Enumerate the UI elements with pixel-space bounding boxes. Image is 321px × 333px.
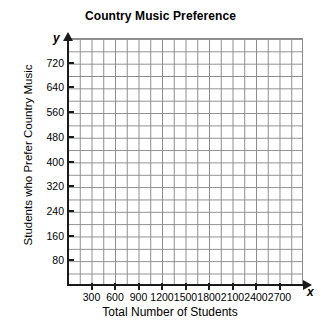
y-axis-tick-mark bbox=[67, 86, 74, 88]
y-axis-tick-mark bbox=[67, 136, 74, 138]
x-axis-title: Total Number of Students bbox=[40, 305, 300, 319]
y-axis-tick-label: 480 bbox=[46, 131, 64, 143]
y-axis-tick-mark bbox=[67, 185, 74, 187]
y-axis-tick-mark bbox=[67, 259, 74, 261]
x-axis-tick-mark bbox=[91, 283, 93, 290]
y-axis-tick-label: 720 bbox=[46, 57, 64, 69]
y-axis-tick-label: 240 bbox=[46, 205, 64, 217]
y-axis-tick: 80 bbox=[0, 254, 74, 266]
chart-figure: Country Music Preference Students who Pr… bbox=[0, 0, 321, 333]
y-axis-tick-label: 400 bbox=[46, 156, 64, 168]
x-axis-tick-mark bbox=[255, 283, 257, 290]
y-axis-tick: 480 bbox=[0, 131, 74, 143]
y-axis-tick: 640 bbox=[0, 81, 74, 93]
y-axis-tick: 160 bbox=[0, 230, 74, 242]
chart-title: Country Music Preference bbox=[0, 9, 321, 23]
y-axis-tick: 720 bbox=[0, 57, 74, 69]
y-axis-tick-label: 320 bbox=[46, 180, 64, 192]
x-axis-tick-mark bbox=[208, 283, 210, 290]
x-axis-tick-mark bbox=[185, 283, 187, 290]
y-axis-tick-mark bbox=[67, 62, 74, 64]
x-axis-tick-mark bbox=[279, 283, 281, 290]
y-axis-tick-label: 640 bbox=[46, 81, 64, 93]
y-axis-tick-mark bbox=[67, 210, 74, 212]
y-axis-tick: 240 bbox=[0, 205, 74, 217]
x-axis-tick-label: 2700 bbox=[263, 291, 297, 303]
x-axis-tick-mark bbox=[138, 283, 140, 290]
y-axis-arrow-icon bbox=[63, 32, 73, 41]
x-axis-tick-mark bbox=[161, 283, 163, 290]
y-axis-tick: 560 bbox=[0, 106, 74, 118]
y-axis-tick-label: 80 bbox=[52, 254, 64, 266]
plot-area-grid bbox=[68, 38, 303, 285]
y-axis-tick-label: 160 bbox=[46, 230, 64, 242]
y-axis-variable-label: y bbox=[53, 32, 60, 45]
x-axis-tick-mark bbox=[232, 283, 234, 290]
y-axis-tick-mark bbox=[67, 161, 74, 163]
y-axis-tick-mark bbox=[67, 111, 74, 113]
x-axis-tick-mark bbox=[114, 283, 116, 290]
x-axis-variable-label: x bbox=[307, 286, 314, 299]
y-axis-tick-mark bbox=[67, 235, 74, 237]
y-axis-tick: 400 bbox=[0, 156, 74, 168]
y-axis-tick-label: 560 bbox=[46, 106, 64, 118]
y-axis-tick: 320 bbox=[0, 180, 74, 192]
